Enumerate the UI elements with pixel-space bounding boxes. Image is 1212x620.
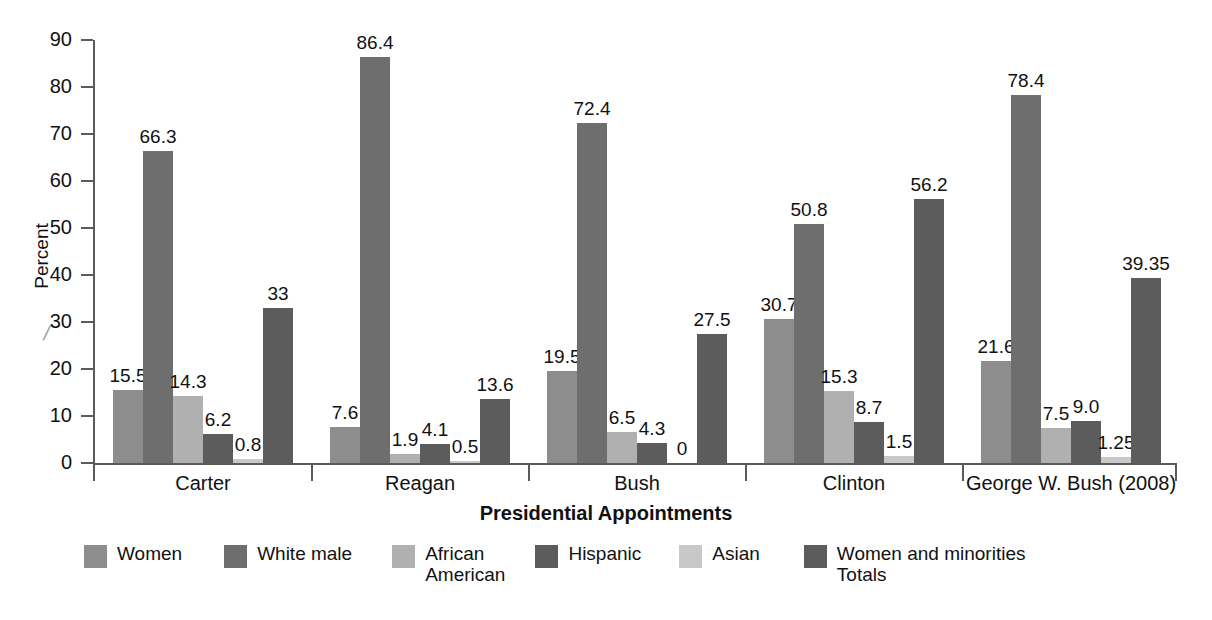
- bar: [547, 371, 577, 463]
- y-axis-tick: [81, 227, 93, 229]
- legend-item[interactable]: White male: [224, 543, 352, 568]
- bar-value-label: 86.4: [346, 33, 404, 52]
- bar: [113, 390, 143, 463]
- bar-value-label: 8.7: [840, 398, 898, 417]
- bar: [390, 454, 420, 463]
- y-axis-tick: [81, 39, 93, 41]
- legend-swatch-icon: [392, 545, 415, 568]
- bar-value-label: 50.8: [780, 200, 838, 219]
- y-axis-tick-label: 50: [12, 217, 72, 237]
- bar-value-label: 33: [249, 284, 307, 303]
- legend-swatch-icon: [804, 545, 827, 568]
- legend-item[interactable]: Women and minorities Totals: [804, 543, 1026, 585]
- legend-label: Hispanic: [568, 543, 641, 564]
- y-axis-tick-label: 90: [12, 29, 72, 49]
- legend-label: African American: [425, 543, 505, 585]
- y-axis-tick-label: 0: [12, 452, 72, 472]
- bar: [794, 224, 824, 463]
- bar: [263, 308, 293, 463]
- bar-value-label: 6.2: [189, 410, 247, 429]
- x-axis-separator-tick: [745, 465, 747, 481]
- bar-value-label: 78.4: [997, 71, 1055, 90]
- legend-item[interactable]: African American: [392, 543, 505, 585]
- y-axis-tick-label: 70: [12, 123, 72, 143]
- y-axis-tick: [81, 86, 93, 88]
- y-axis-tick-label: 10: [12, 405, 72, 425]
- y-axis-title: Percent: [31, 196, 53, 316]
- y-axis-tick: [81, 462, 93, 464]
- bar: [884, 456, 914, 463]
- y-axis-tick: [81, 180, 93, 182]
- x-axis-line: [93, 463, 1177, 465]
- bar: [1041, 428, 1071, 463]
- legend-swatch-icon: [224, 545, 247, 568]
- bar: [981, 361, 1011, 463]
- legend-swatch-icon: [84, 545, 107, 568]
- y-axis-tick: [81, 368, 93, 370]
- bar: [233, 459, 263, 463]
- legend-label: Women and minorities Totals: [837, 543, 1026, 585]
- legend-item[interactable]: Women: [84, 543, 182, 568]
- bar: [143, 151, 173, 463]
- y-axis-tick-label: 40: [12, 264, 72, 284]
- y-axis-tick-label: 30: [12, 311, 72, 331]
- bar-value-label: 15.3: [810, 367, 868, 386]
- bar: [480, 399, 510, 463]
- x-axis-title: Presidential Appointments: [0, 502, 1212, 525]
- y-axis-tick: [81, 133, 93, 135]
- legend-swatch-icon: [679, 545, 702, 568]
- y-axis-tick: [81, 321, 93, 323]
- bar: [360, 57, 390, 463]
- bar-value-label: 66.3: [129, 127, 187, 146]
- bar: [697, 334, 727, 463]
- legend-label: White male: [257, 543, 352, 564]
- bar-value-label: 27.5: [683, 310, 741, 329]
- legend-item[interactable]: Asian: [679, 543, 760, 568]
- bar: [764, 319, 794, 463]
- y-axis-tick: [81, 415, 93, 417]
- x-axis-separator-tick: [311, 465, 313, 481]
- x-axis-separator-tick: [962, 465, 964, 481]
- bar-value-label: 39.35: [1117, 254, 1175, 273]
- x-axis-separator-tick: [528, 465, 530, 481]
- legend-item[interactable]: Hispanic: [535, 543, 641, 568]
- y-axis-line: [93, 40, 95, 464]
- y-axis-tick: [81, 274, 93, 276]
- legend-swatch-icon: [535, 545, 558, 568]
- bar-value-label: 14.3: [159, 372, 217, 391]
- bar: [330, 427, 360, 463]
- bar-chart: Percent / 0102030405060708090 15.566.314…: [0, 0, 1212, 620]
- legend-label: Asian: [712, 543, 760, 564]
- bar: [173, 396, 203, 463]
- y-axis-tick-label: 80: [12, 76, 72, 96]
- x-axis-group-label: George W. Bush (2008): [941, 472, 1201, 494]
- legend-label: Women: [117, 543, 182, 564]
- bar: [1131, 278, 1161, 463]
- bar-value-label: 9.0: [1057, 397, 1115, 416]
- bar-value-label: 13.6: [466, 375, 524, 394]
- bar-value-label: 56.2: [900, 175, 958, 194]
- bar-value-label: 4.3: [623, 419, 681, 438]
- y-axis-tick-label: 60: [12, 170, 72, 190]
- bar: [450, 461, 480, 463]
- legend: WomenWhite maleAfrican AmericanHispanicA…: [84, 543, 1026, 585]
- x-axis-separator-tick: [93, 465, 95, 481]
- bar: [914, 199, 944, 463]
- bar: [1101, 457, 1131, 463]
- bar-value-label: 72.4: [563, 99, 621, 118]
- y-axis-tick-label: 20: [12, 358, 72, 378]
- x-axis-separator-tick: [1175, 465, 1177, 481]
